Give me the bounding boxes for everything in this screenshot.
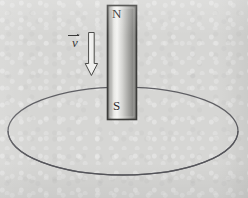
- conducting-loop-front-arc: [8, 131, 238, 175]
- physics-diagram-figure: v N S: [0, 0, 248, 198]
- loop-front-layer: [0, 0, 248, 198]
